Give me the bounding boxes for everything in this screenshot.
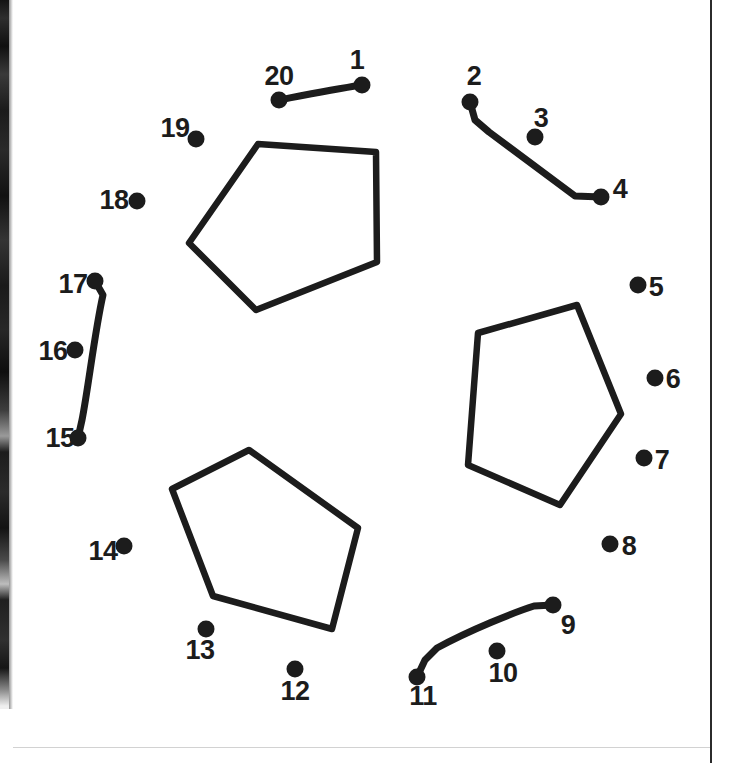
- dot-label-13: 13: [185, 637, 214, 664]
- dot-label-16: 16: [38, 338, 67, 365]
- dot-label-1: 1: [350, 47, 365, 74]
- dot-14[interactable]: [116, 538, 133, 555]
- dot-label-3: 3: [534, 105, 549, 132]
- dot-label-2: 2: [467, 63, 482, 90]
- puzzle-page: 1234567891011121314151617181920: [0, 0, 733, 763]
- outline-shapes-layer: [172, 144, 621, 629]
- dot-label-9: 9: [561, 612, 576, 639]
- dot-20[interactable]: [271, 92, 288, 109]
- puzzle-artwork: [0, 0, 733, 763]
- dot-4[interactable]: [593, 189, 610, 206]
- segment-17-to-15: [78, 281, 103, 438]
- dot-label-17: 17: [58, 271, 87, 298]
- dot-label-4: 4: [613, 176, 628, 203]
- dot-8[interactable]: [602, 536, 619, 553]
- dot-16[interactable]: [67, 342, 84, 359]
- shape-right-pentagon: [468, 305, 621, 505]
- dot-label-11: 11: [409, 683, 437, 710]
- shape-bottom-left-pentagon: [172, 450, 358, 629]
- dot-9[interactable]: [545, 597, 562, 614]
- dot-label-7: 7: [655, 447, 670, 474]
- segment-11-to-9: [417, 605, 553, 677]
- dot-17[interactable]: [87, 273, 104, 290]
- dot-label-15: 15: [45, 425, 74, 452]
- dot-label-20: 20: [264, 63, 293, 90]
- dot-label-5: 5: [649, 274, 664, 301]
- dots-layer: [67, 77, 664, 686]
- dot-label-6: 6: [666, 366, 681, 393]
- dot-2[interactable]: [462, 94, 479, 111]
- dot-label-14: 14: [88, 538, 117, 565]
- dot-label-19: 19: [160, 115, 189, 142]
- shape-top-pentagon: [189, 144, 377, 310]
- dot-19[interactable]: [188, 131, 205, 148]
- dot-label-12: 12: [280, 678, 309, 705]
- dot-5[interactable]: [630, 277, 647, 294]
- dot-6[interactable]: [647, 370, 664, 387]
- dot-label-8: 8: [622, 533, 637, 560]
- dot-label-10: 10: [488, 660, 517, 687]
- dot-label-18: 18: [99, 187, 128, 214]
- dot-1[interactable]: [354, 77, 371, 94]
- dot-7[interactable]: [636, 450, 653, 467]
- dot-18[interactable]: [129, 193, 146, 210]
